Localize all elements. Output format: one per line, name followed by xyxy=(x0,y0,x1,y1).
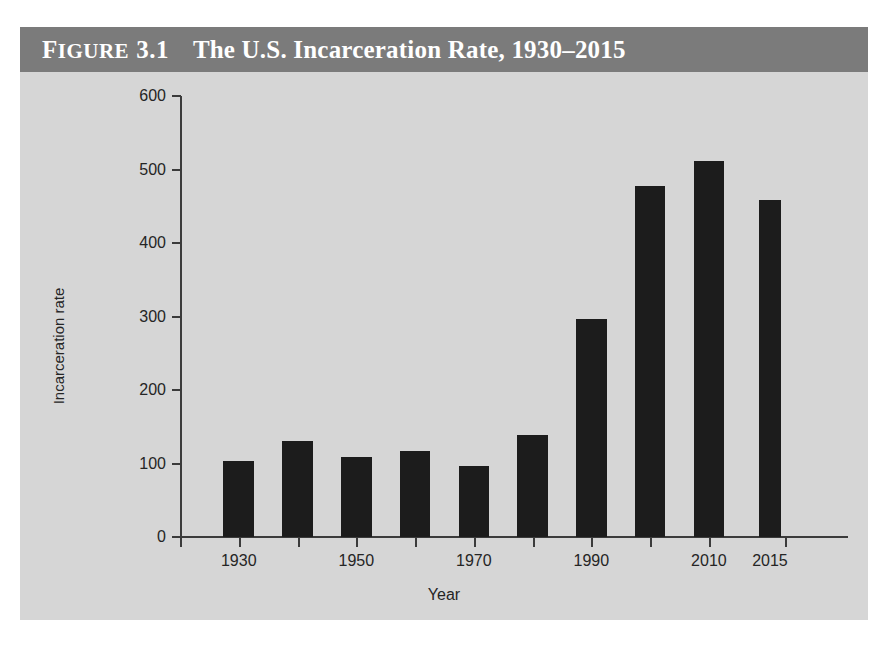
bar xyxy=(694,161,725,537)
bar xyxy=(223,461,254,537)
y-tick-label: 500 xyxy=(106,161,166,179)
y-tick-label: 400 xyxy=(106,234,166,252)
x-tick-mark xyxy=(298,538,300,547)
figure-root: FIGURE3.1The U.S. Incarceration Rate, 19… xyxy=(0,0,891,646)
figure-header-text: FIGURE3.1The U.S. Incarceration Rate, 19… xyxy=(42,36,626,64)
x-tick-label: 1990 xyxy=(574,552,610,570)
x-axis-title: Year xyxy=(20,586,868,604)
figure-label: FIGURE xyxy=(42,39,129,63)
x-tick-label: 1950 xyxy=(339,552,375,570)
x-tick-mark xyxy=(239,538,241,547)
y-tick-label: 100 xyxy=(106,455,166,473)
y-axis-tick-labels: 0100200300400500600 xyxy=(90,72,166,620)
bar xyxy=(341,457,372,537)
figure-number: 3.1 xyxy=(136,36,169,63)
x-tick-mark xyxy=(785,538,787,547)
bar xyxy=(517,435,548,537)
bar xyxy=(459,466,490,537)
x-tick-mark xyxy=(356,538,358,547)
y-tick-label: 600 xyxy=(106,87,166,105)
bar xyxy=(576,319,607,537)
bar xyxy=(282,441,313,537)
bar xyxy=(635,186,666,537)
y-tick-label: 0 xyxy=(106,528,166,546)
x-tick-mark xyxy=(533,538,535,547)
x-tick-label: 2015 xyxy=(752,552,788,570)
x-tick-mark xyxy=(474,538,476,547)
y-tick-label: 200 xyxy=(106,381,166,399)
plot-area xyxy=(180,96,847,537)
x-tick-label: 2010 xyxy=(691,552,727,570)
y-axis-title: Incarceration rate xyxy=(50,288,67,405)
y-tick-label: 300 xyxy=(106,308,166,326)
figure-header-band: FIGURE3.1The U.S. Incarceration Rate, 19… xyxy=(20,27,868,72)
figure-title: The U.S. Incarceration Rate, 1930–2015 xyxy=(193,36,626,63)
x-tick-mark xyxy=(591,538,593,547)
bar xyxy=(759,200,782,537)
x-tick-mark xyxy=(180,538,182,547)
chart-panel: 0100200300400500600 19301950197019902010… xyxy=(20,72,868,620)
x-tick-mark xyxy=(709,538,711,547)
x-tick-mark xyxy=(415,538,417,547)
x-tick-label: 1930 xyxy=(221,552,257,570)
x-tick-mark xyxy=(650,538,652,547)
figure-label-rest: IGURE xyxy=(58,39,129,63)
x-tick-label: 1970 xyxy=(456,552,492,570)
figure-label-initial: F xyxy=(42,36,58,63)
bar xyxy=(400,451,431,537)
